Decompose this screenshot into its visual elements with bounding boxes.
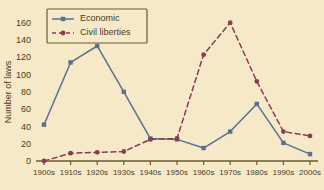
y-tick-label: 40	[21, 122, 31, 132]
y-tick-label: 160	[16, 18, 31, 28]
data-point-marker	[42, 159, 47, 164]
data-point-marker	[95, 44, 99, 48]
x-tick-label: 1910s	[60, 168, 82, 177]
y-tick-label: 0	[26, 156, 31, 166]
y-tick-label: 20	[21, 139, 31, 149]
y-tick-label: 140	[16, 35, 31, 45]
data-point-marker	[148, 137, 153, 142]
y-tick-label: 100	[16, 70, 31, 80]
data-point-marker	[308, 152, 312, 156]
data-point-marker	[255, 102, 259, 106]
y-axis-title: Number of laws	[3, 60, 13, 123]
x-tick-label: 1970s	[219, 168, 241, 177]
data-point-marker	[281, 141, 285, 145]
x-tick-label: 1950s	[166, 168, 188, 177]
legend-label: Economic	[80, 13, 120, 23]
y-tick-label: 60	[21, 104, 31, 114]
y-tick-label: 80	[21, 87, 31, 97]
x-tick-label: 1940s	[140, 168, 162, 177]
data-point-marker	[68, 60, 72, 64]
data-point-marker	[228, 20, 233, 25]
x-tick-label: 1920s	[86, 168, 108, 177]
x-tick-label: 1980s	[246, 168, 268, 177]
data-point-marker	[201, 146, 205, 150]
data-point-marker	[228, 129, 232, 133]
chart-legend: EconomicCivil liberties	[47, 9, 147, 43]
data-point-marker	[254, 79, 259, 84]
legend-label: Civil liberties	[80, 27, 131, 37]
legend-marker	[61, 31, 66, 36]
data-point-marker	[68, 151, 73, 156]
data-point-marker	[308, 134, 313, 139]
x-tick-label: 1900s	[33, 168, 55, 177]
x-tick-label: 1990s	[273, 168, 295, 177]
legend-marker	[61, 17, 65, 21]
data-point-marker	[201, 52, 206, 57]
line-chart: 020406080100120140160 1900s1910s1920s193…	[0, 0, 324, 190]
x-tick-label: 2000s	[299, 168, 321, 177]
x-tick-label: 1960s	[193, 168, 215, 177]
y-tick-label: 120	[16, 52, 31, 62]
data-point-marker	[122, 90, 126, 94]
x-tick-label: 1930s	[113, 168, 135, 177]
data-point-marker	[281, 129, 286, 134]
data-point-marker	[95, 150, 100, 155]
data-point-marker	[121, 149, 126, 154]
data-point-marker	[175, 136, 180, 141]
chart-container: 020406080100120140160 1900s1910s1920s193…	[0, 0, 324, 190]
data-point-marker	[42, 122, 46, 126]
